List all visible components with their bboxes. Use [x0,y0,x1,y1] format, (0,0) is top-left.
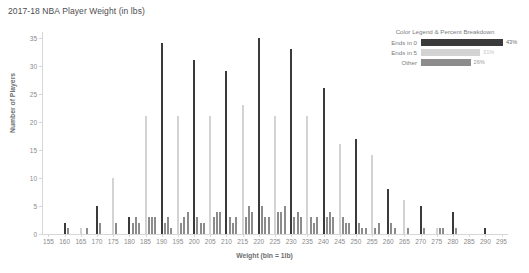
bar [277,212,279,234]
legend-bar-wrap: 43% [421,39,521,46]
bar [313,223,315,234]
x-axis-tick-mark [502,234,503,237]
bar [180,223,182,234]
bar [229,217,231,234]
y-axis-tick-mark [39,66,42,67]
legend-percent-bar [421,39,503,46]
bar [219,212,221,234]
y-axis-tick-label: 15 [30,146,37,153]
x-axis-tick-label: 205 [205,238,216,245]
bar [332,217,334,234]
y-axis-line [42,32,43,235]
bar [348,223,350,234]
bar [297,212,299,234]
x-axis-tick-label: 225 [270,238,281,245]
bar [242,105,244,234]
bar [245,217,247,234]
x-axis-tick-mark [129,234,130,237]
y-axis-tick-mark [39,38,42,39]
bar [455,228,457,234]
y-axis-tick-mark [39,178,42,179]
legend-row[interactable]: Other26% [369,58,521,66]
bar [484,228,486,234]
x-axis-tick-label: 160 [59,238,70,245]
bar [439,228,441,234]
bar [264,217,266,234]
bar [394,228,396,234]
x-axis-tick-mark [194,234,195,237]
x-axis-tick-label: 215 [237,238,248,245]
bar [183,217,185,234]
bar [420,206,422,234]
bar [442,228,444,234]
x-axis-tick-mark [307,234,308,237]
legend-percent-bar [421,59,471,66]
bar [115,223,117,234]
x-axis-tick-label: 255 [367,238,378,245]
legend-row[interactable]: Ends in 531% [369,48,521,56]
y-axis-tick-label: 10 [30,174,37,181]
x-axis-tick-label: 185 [140,238,151,245]
bar [235,217,237,234]
bar [300,217,302,234]
x-axis-tick-mark [226,234,227,237]
x-axis-tick-label: 280 [448,238,459,245]
y-axis-tick-label: 25 [30,90,37,97]
bar [64,223,66,234]
x-axis-tick-label: 220 [253,238,264,245]
x-axis-tick-label: 190 [156,238,167,245]
x-axis-tick-mark [404,234,405,237]
y-axis-tick-mark [39,150,42,151]
legend-item-label: Ends in 5 [369,49,421,56]
legend-bar-wrap: 26% [421,59,521,66]
x-axis-tick-label: 260 [383,238,394,245]
x-axis-tick-label: 275 [431,238,442,245]
x-axis-tick-label: 245 [334,238,345,245]
x-axis-tick-label: 265 [399,238,410,245]
x-axis-tick-mark [81,234,82,237]
bar [164,223,166,234]
x-axis-tick-label: 170 [92,238,103,245]
bar [310,217,312,234]
bar [148,217,150,234]
x-axis-tick-label: 230 [286,238,297,245]
bar [258,38,260,234]
x-axis-tick-mark [178,234,179,237]
x-axis-tick-label: 240 [318,238,329,245]
bar [436,228,438,234]
bar [67,228,69,234]
x-axis-tick-label: 250 [350,238,361,245]
legend-title: Color Legend & Percent Breakdown [369,28,521,35]
y-axis-tick-label: 0 [33,231,37,238]
x-axis-tick-label: 180 [124,238,135,245]
bar [251,212,253,234]
legend-row[interactable]: Ends in 043% [369,38,521,46]
legend-percent-value: 31% [483,49,494,56]
x-axis-tick-mark [372,234,373,237]
bar [203,223,205,234]
bar [329,212,331,234]
bar [177,116,179,234]
bar [358,223,360,234]
bar [196,217,198,234]
y-axis-tick-mark [39,94,42,95]
bar [342,217,344,234]
bar [138,223,140,234]
x-axis-tick-mark [388,234,389,237]
x-axis-tick-mark [340,234,341,237]
bar [365,228,367,234]
x-axis-tick-mark [324,234,325,237]
y-axis-tick-label: 35 [30,34,37,41]
bar [407,228,409,234]
x-axis-tick-mark [162,234,163,237]
bar [232,223,234,234]
bar [268,217,270,234]
x-axis-tick-mark [469,234,470,237]
bar [452,212,454,234]
legend-item-label: Ends in 0 [369,39,421,46]
bar [316,217,318,234]
x-axis-title: Weight (bin = 1lb) [0,252,529,259]
x-axis-tick-mark [275,234,276,237]
bar [306,116,308,234]
bar [167,217,169,234]
